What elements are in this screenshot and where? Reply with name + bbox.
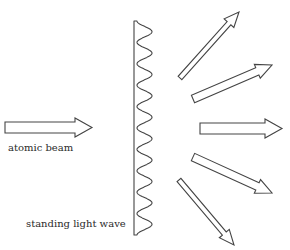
atomic-beam-label: atomic beam <box>8 143 73 153</box>
grating-outline <box>134 21 152 235</box>
incident-atomic-beam-arrow <box>5 118 92 137</box>
standing-light-wave-label: standing light wave <box>26 219 126 229</box>
diffracted-arrow-icon <box>200 119 282 138</box>
diffracted-arrow-icon <box>177 178 234 245</box>
diffracted-beams <box>177 12 282 245</box>
standing-light-wave-grating <box>134 21 152 235</box>
arrow-icon <box>5 118 92 137</box>
diffracted-arrow-icon <box>191 153 272 193</box>
diagram-canvas <box>0 0 290 250</box>
diffracted-arrow-icon <box>191 64 272 102</box>
diffracted-arrow-icon <box>178 12 239 80</box>
